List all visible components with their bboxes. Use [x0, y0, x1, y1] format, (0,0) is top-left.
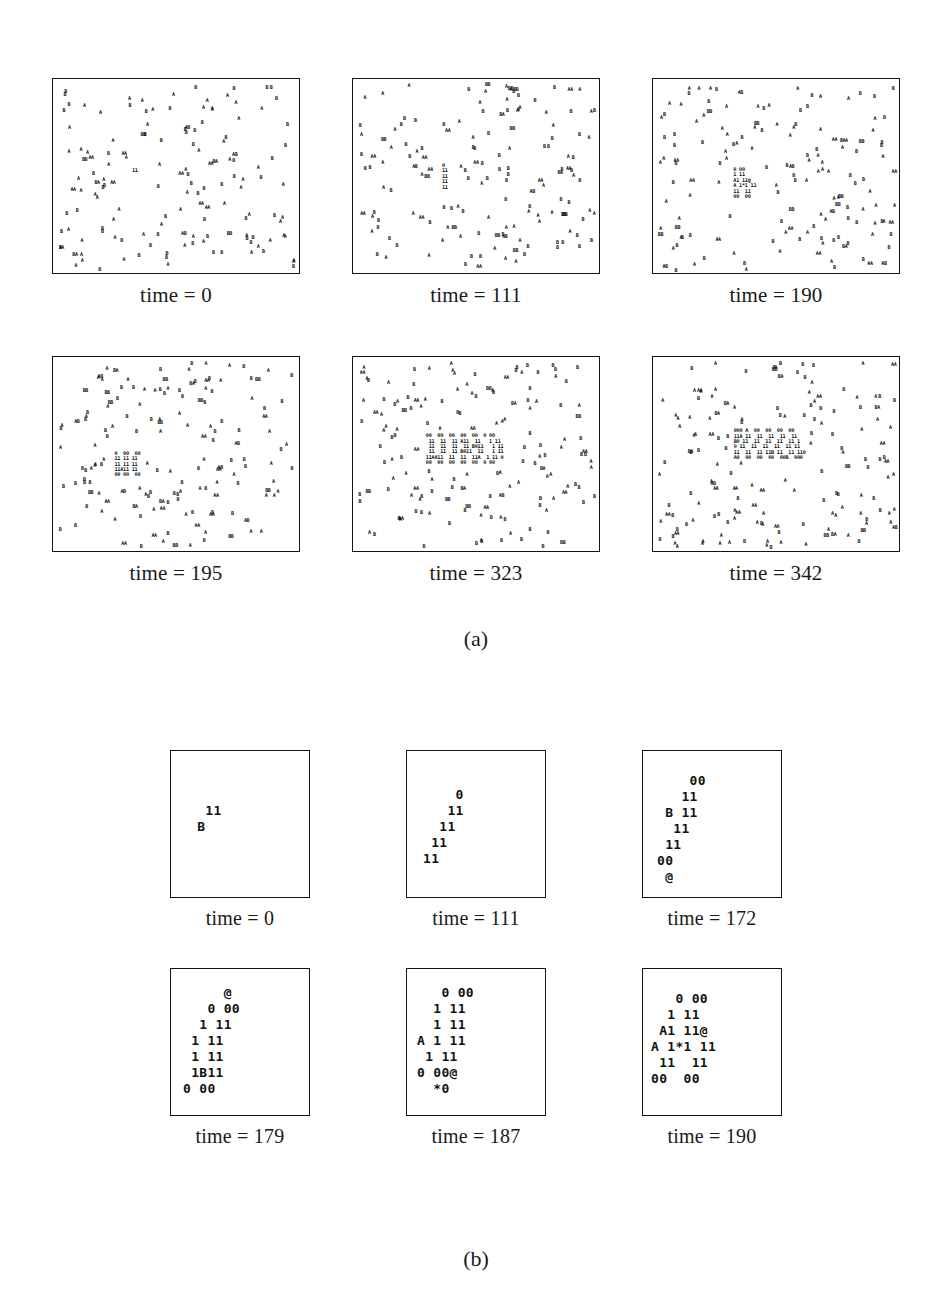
particle-symbol: AB [218, 464, 223, 469]
particle-symbol: A [783, 414, 786, 419]
particle-symbol: A [158, 416, 161, 421]
particle-symbol: A [505, 96, 508, 101]
simulation-box: 11 B [170, 750, 310, 898]
particle-symbol: A [698, 85, 701, 90]
particle-symbol: B [561, 239, 564, 244]
particle-symbol: B [546, 530, 549, 535]
particle-symbol: BB [845, 463, 850, 468]
particle-symbol: B [500, 537, 503, 542]
particle-symbol: A [860, 427, 863, 432]
particle-symbol: AA [208, 161, 213, 166]
particle-symbol: AA [568, 86, 573, 91]
particle-symbol: A [756, 104, 759, 109]
particle-symbol: BB [707, 108, 712, 113]
particle-symbol: A [465, 381, 468, 386]
particle-symbol: A [784, 229, 787, 234]
particle-symbol: B [796, 370, 799, 375]
particle-symbol: AA [213, 492, 218, 497]
particle-symbol: B [806, 152, 809, 157]
particle-symbol: B [197, 191, 200, 196]
particle-symbol: BB [163, 376, 168, 381]
particle-symbol: AB [98, 373, 103, 378]
particle-symbol: A [428, 511, 431, 516]
particle-symbol: B [765, 164, 768, 169]
particle-symbol: A [424, 397, 427, 402]
particle-symbol: A [420, 403, 423, 408]
particle-symbol: A [808, 389, 811, 394]
particle-symbol: A [202, 457, 205, 462]
particle-symbol: B [393, 401, 396, 406]
particle-symbol: A [714, 360, 717, 365]
particle-symbol: A [711, 394, 714, 399]
particle-symbol: B [506, 108, 509, 113]
particle-symbol: B [279, 447, 282, 452]
particle-symbol: A [701, 540, 704, 545]
particle-symbol: A [265, 493, 268, 498]
particle-symbol: A [248, 212, 251, 217]
particle-symbol: A [841, 505, 844, 510]
particle-symbol: B [576, 233, 579, 238]
particle-symbol: B [673, 132, 676, 137]
particle-symbol: B [62, 108, 65, 113]
particle-symbol: B [547, 143, 550, 148]
particle-symbol: B [740, 419, 743, 424]
particle-scatter-layer: BBAAAAAABBBAAAAABABAABBABAAABBBABABBBABA… [653, 79, 899, 273]
particle-symbol: A [420, 171, 423, 176]
particle-symbol: AA [689, 178, 694, 183]
particle-symbol: A [387, 380, 390, 385]
particle-symbol: B [732, 141, 735, 146]
particle-symbol: A [166, 385, 169, 390]
particle-symbol: AA [121, 540, 126, 545]
particle-symbol: B [140, 544, 143, 549]
particle-symbol: AB [244, 517, 249, 522]
particle-symbol: A [515, 259, 518, 264]
particle-symbol: A [471, 134, 474, 139]
particle-symbol: B [862, 257, 865, 262]
particle-symbol: A [745, 266, 748, 271]
particle-symbol: B [286, 121, 289, 126]
particle-symbol: A [695, 119, 698, 124]
particle-symbol: A [226, 92, 229, 97]
particle-symbol: B [106, 434, 109, 439]
cell-row: 11 [189, 803, 222, 819]
particle-symbol: B [190, 181, 193, 186]
particle-symbol: AA [470, 425, 475, 430]
particle-symbol: B [504, 197, 507, 202]
particle-symbol: A [360, 131, 363, 136]
particle-symbol: A [882, 153, 885, 158]
particle-symbol: BB [835, 202, 840, 207]
particle-symbol: B [149, 242, 152, 247]
particle-symbol: A [202, 238, 205, 243]
particle-symbol: A [396, 398, 399, 403]
particle-symbol: A [861, 207, 864, 212]
particle-symbol: A [493, 246, 496, 251]
particle-symbol: AA [842, 137, 847, 142]
particle-symbol: BB [424, 173, 429, 178]
cell-row: 11 [423, 835, 447, 851]
particle-symbol: A [197, 147, 200, 152]
particle-symbol: BB [824, 532, 829, 537]
panel-b-0: 11 B time = 0 [170, 750, 310, 928]
particle-symbol: A [708, 415, 711, 420]
particle-symbol: A [672, 246, 675, 251]
particle-symbol: B [740, 135, 743, 140]
particle-symbol: A [487, 215, 490, 220]
particle-symbol: B [593, 494, 596, 499]
particle-symbol: B [840, 137, 843, 142]
particle-symbol: B [779, 360, 782, 365]
particle-symbol: AA [201, 433, 206, 438]
particle-symbol: A [780, 539, 783, 544]
particle-symbol: BA [778, 374, 783, 379]
particle-symbol: B [690, 365, 693, 370]
particle-symbol: B [237, 427, 240, 432]
particle-symbol: B [137, 252, 140, 257]
particle-symbol: A [250, 528, 253, 533]
particle-symbol: B [593, 108, 596, 113]
particle-symbol: AA [110, 179, 115, 184]
particle-symbol: BA [831, 531, 836, 536]
particle-symbol: B [687, 90, 690, 95]
particle-symbol: B [526, 362, 529, 367]
particle-symbol: BA [159, 498, 164, 503]
particle-symbol: B [260, 175, 263, 180]
particle-symbol: BB [265, 487, 270, 492]
